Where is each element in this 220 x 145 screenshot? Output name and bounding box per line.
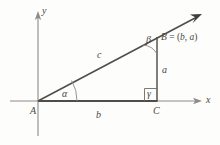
point-b-close-paren: ) xyxy=(194,32,197,42)
angle-label-beta: β xyxy=(146,35,151,45)
point-b-coordinates-label: B = (b, a) xyxy=(161,33,198,43)
ray-arrowhead xyxy=(190,14,202,23)
geometry-diagram xyxy=(0,0,220,145)
side-label-b: b xyxy=(96,110,101,120)
vertex-label-a: A xyxy=(30,106,36,116)
side-label-c: c xyxy=(97,50,101,60)
angle-label-alpha: α xyxy=(62,89,67,99)
x-axis-label: x xyxy=(206,95,210,105)
angle-marks-group xyxy=(72,45,157,101)
angle-arc-beta xyxy=(143,45,157,54)
figure-container: x y A C b a c α β γ B = (b, a) xyxy=(0,0,220,145)
side-label-a: a xyxy=(162,65,167,75)
angle-label-gamma: γ xyxy=(147,89,151,99)
vertex-label-c: C xyxy=(153,106,160,116)
y-axis-label: y xyxy=(42,6,46,16)
point-b-equals: = ( xyxy=(167,32,180,42)
